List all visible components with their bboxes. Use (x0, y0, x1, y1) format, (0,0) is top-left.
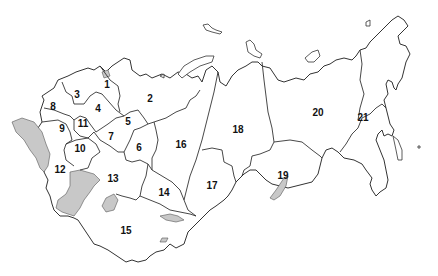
severnaya-zemlya (246, 40, 262, 58)
region-label-6: 6 (136, 142, 142, 153)
region-label-21: 21 (357, 112, 368, 123)
region-label-1: 1 (104, 79, 110, 90)
region-label-14: 14 (158, 187, 169, 198)
region-label-5: 5 (125, 116, 131, 127)
region-label-15: 15 (120, 225, 131, 236)
region-label-9: 9 (59, 123, 65, 134)
kuril-dots (418, 146, 420, 148)
region-label-19: 19 (277, 170, 288, 181)
region-label-17: 17 (206, 180, 217, 191)
region-label-7: 7 (108, 131, 114, 142)
region-label-18: 18 (232, 124, 243, 135)
region-label-12: 12 (54, 164, 65, 175)
sakhalin (393, 136, 402, 160)
region-label-13: 13 (107, 173, 118, 184)
region-label-10: 10 (74, 143, 85, 154)
region-label-4: 4 (95, 103, 101, 114)
region-label-16: 16 (175, 139, 186, 150)
region-label-11: 11 (78, 118, 89, 129)
region-label-8: 8 (50, 101, 56, 112)
russia-regions-map (0, 0, 438, 276)
country-outline (38, 16, 410, 262)
region-label-20: 20 (312, 107, 323, 118)
new-siberian-islands (305, 50, 320, 62)
region-label-2: 2 (147, 93, 153, 104)
franz-josef-land (203, 24, 222, 34)
region-label-3: 3 (74, 89, 80, 100)
wrangel-island (366, 20, 370, 26)
